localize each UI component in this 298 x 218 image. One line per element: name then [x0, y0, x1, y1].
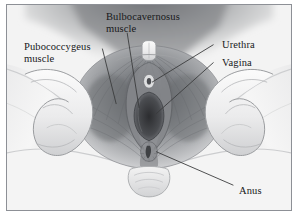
label-pubococcygeus-muscle: Pubococcygeus muscle [24, 41, 91, 64]
label-vagina: Vagina [222, 57, 252, 69]
label-urethra: Urethra [222, 39, 255, 51]
illustration-plate: Bulbocavernosus muscle Pubococcygeus mus… [6, 4, 292, 211]
label-bulbocavernosus-muscle: Bulbocavernosus muscle [106, 11, 180, 34]
anus-opening [140, 142, 158, 162]
label-anus: Anus [239, 185, 262, 197]
perineum-anatomy-illustration [7, 5, 291, 210]
figure-root: Bulbocavernosus muscle Pubococcygeus mus… [0, 0, 298, 218]
coccyx [128, 166, 170, 196]
